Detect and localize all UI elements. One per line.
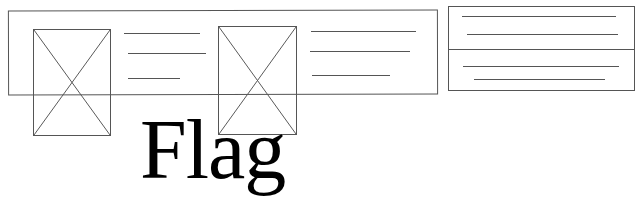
side-panel-section-1-line-1 bbox=[462, 16, 616, 17]
card-1-text-line-2 bbox=[128, 53, 206, 54]
side-panel-section-2-line-2 bbox=[474, 79, 605, 80]
card-2-text-line-2 bbox=[310, 51, 410, 52]
image-placeholder-icon bbox=[34, 30, 110, 135]
flag-label: Flag bbox=[140, 108, 285, 192]
side-panel-section-1-line-2 bbox=[467, 34, 618, 35]
card-1-text-line-3 bbox=[128, 78, 180, 79]
image-placeholder-1[interactable] bbox=[33, 29, 111, 136]
side-panel-section-2-line-1 bbox=[463, 66, 619, 67]
card-1-text-line-1 bbox=[124, 33, 200, 34]
card-2-text-line-3 bbox=[312, 75, 390, 76]
card-2-text-line-1 bbox=[311, 31, 416, 32]
side-panel-divider bbox=[448, 49, 635, 50]
